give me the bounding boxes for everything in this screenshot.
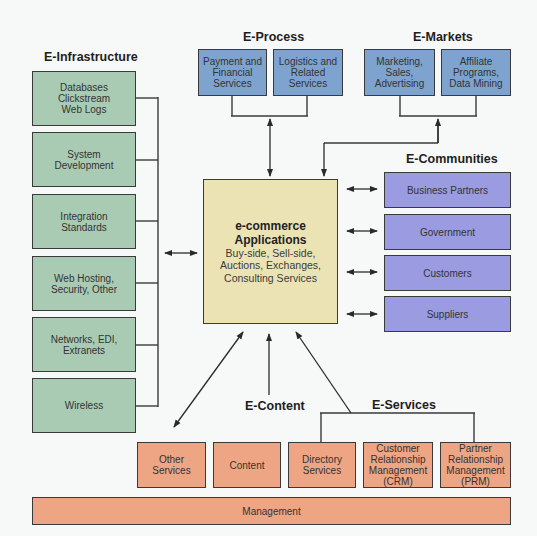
center-title-line2: Applications — [234, 233, 306, 247]
e-markets-title: E-Markets — [413, 30, 473, 44]
center-title-line1: e-commerce — [235, 219, 306, 233]
community-customers-box: Customers — [384, 255, 511, 291]
infra-integration-standards-box: Integration Standards — [32, 194, 136, 249]
infra-networks-box: Networks, EDI, Extranets — [32, 317, 136, 372]
prm-box: Partner Relationship Management (PRM) — [440, 442, 511, 488]
markets-marketing-box: Marketing, Sales, Advertising — [364, 49, 435, 96]
e-services-title: E-Services — [372, 398, 436, 412]
infra-web-hosting-box: Web Hosting, Security, Other — [32, 256, 136, 311]
e-infrastructure-title: E-Infrastructure — [44, 50, 138, 64]
infra-databases-box: Databases Clickstream Web Logs — [32, 71, 136, 126]
content-box: Content — [213, 442, 281, 488]
management-bar: Management — [32, 497, 511, 525]
infra-wireless-box: Wireless — [32, 378, 136, 433]
process-payment-box: Payment and Financial Services — [198, 49, 267, 96]
community-government-box: Government — [384, 214, 511, 250]
e-process-title: E-Process — [243, 30, 304, 44]
community-business-partners-box: Business Partners — [384, 172, 511, 208]
directory-services-box: Directory Services — [288, 442, 356, 488]
other-services-box: Other Services — [137, 442, 206, 488]
crm-box: Customer Relationship Management (CRM) — [363, 442, 433, 488]
community-suppliers-box: Suppliers — [384, 296, 511, 332]
e-communities-title: E-Communities — [406, 152, 498, 166]
ecommerce-applications-box: e-commerce Applications Buy-side, Sell-s… — [203, 179, 338, 324]
infra-system-development-box: System Development — [32, 132, 136, 187]
e-content-title: E-Content — [245, 399, 305, 413]
markets-affiliate-box: Affiliate Programs, Data Mining — [441, 49, 511, 96]
process-logistics-box: Logistics and Related Services — [273, 49, 343, 96]
center-subtitle: Buy-side, Sell-side, Auctions, Exchanges… — [220, 247, 321, 285]
